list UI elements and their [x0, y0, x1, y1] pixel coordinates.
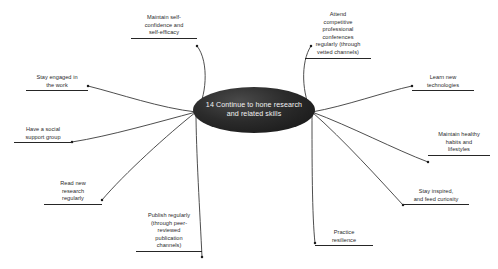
branch-underline	[136, 251, 202, 252]
connector-read-new-research	[102, 112, 196, 200]
branch-underline	[412, 90, 474, 91]
center-node[interactable]: 14 Continue to hone research and related…	[193, 87, 315, 133]
mindmap-canvas: 14 Continue to hone research and related…	[0, 0, 498, 269]
branch-learn-new-technologies[interactable]: Learn new technologies	[412, 74, 474, 91]
branch-publish-regularly[interactable]: Publish regularly (through peer- reviewe…	[136, 212, 202, 252]
connector-end-dots	[71, 45, 430, 259]
branch-practice-resilience[interactable]: Practice resilience	[315, 229, 373, 246]
center-node-label: 14 Continue to hone research and related…	[200, 101, 308, 120]
branch-underline	[14, 142, 72, 143]
branch-label: Maintain self- confidence and self-effic…	[131, 14, 197, 38]
branch-label: Stay engaged in the work	[26, 74, 88, 90]
branch-label: Publish regularly (through peer- reviewe…	[136, 212, 202, 251]
branch-underline	[44, 204, 102, 205]
branch-label: Read new research regularly	[44, 180, 102, 204]
branch-label: Attend competitive professional conferen…	[305, 11, 371, 58]
branch-label: Have a social support group	[14, 126, 72, 142]
branch-read-new-research[interactable]: Read new research regularly	[44, 180, 102, 205]
branch-underline	[403, 204, 469, 205]
branch-attend-conferences[interactable]: Attend competitive professional conferen…	[305, 11, 371, 59]
branch-stay-engaged[interactable]: Stay engaged in the work	[26, 74, 88, 91]
branch-label: Maintain healthy habits and lifestyles	[428, 131, 490, 155]
connector-stay-inspired	[312, 112, 403, 205]
branch-social-support-group[interactable]: Have a social support group	[14, 126, 72, 143]
connector-practice-resilience	[312, 112, 315, 243]
connector-maintain-healthy-habits	[312, 112, 428, 162]
branch-stay-inspired[interactable]: Stay inspired, and feed curiosity	[403, 188, 469, 205]
branch-maintain-self-confidence[interactable]: Maintain self- confidence and self-effic…	[131, 14, 197, 39]
branch-underline	[131, 38, 197, 39]
connector-learn-new-technologies	[312, 86, 412, 112]
branch-label: Stay inspired, and feed curiosity	[403, 188, 469, 204]
branch-underline	[305, 58, 371, 59]
connector-stay-engaged	[88, 86, 196, 112]
branch-label: Learn new technologies	[412, 74, 474, 90]
branch-connectors	[0, 0, 498, 269]
branch-underline	[26, 90, 88, 91]
branch-maintain-healthy-habits[interactable]: Maintain healthy habits and lifestyles	[428, 131, 490, 156]
branch-underline	[428, 155, 490, 156]
branch-underline	[315, 245, 373, 246]
branch-label: Practice resilience	[315, 229, 373, 245]
